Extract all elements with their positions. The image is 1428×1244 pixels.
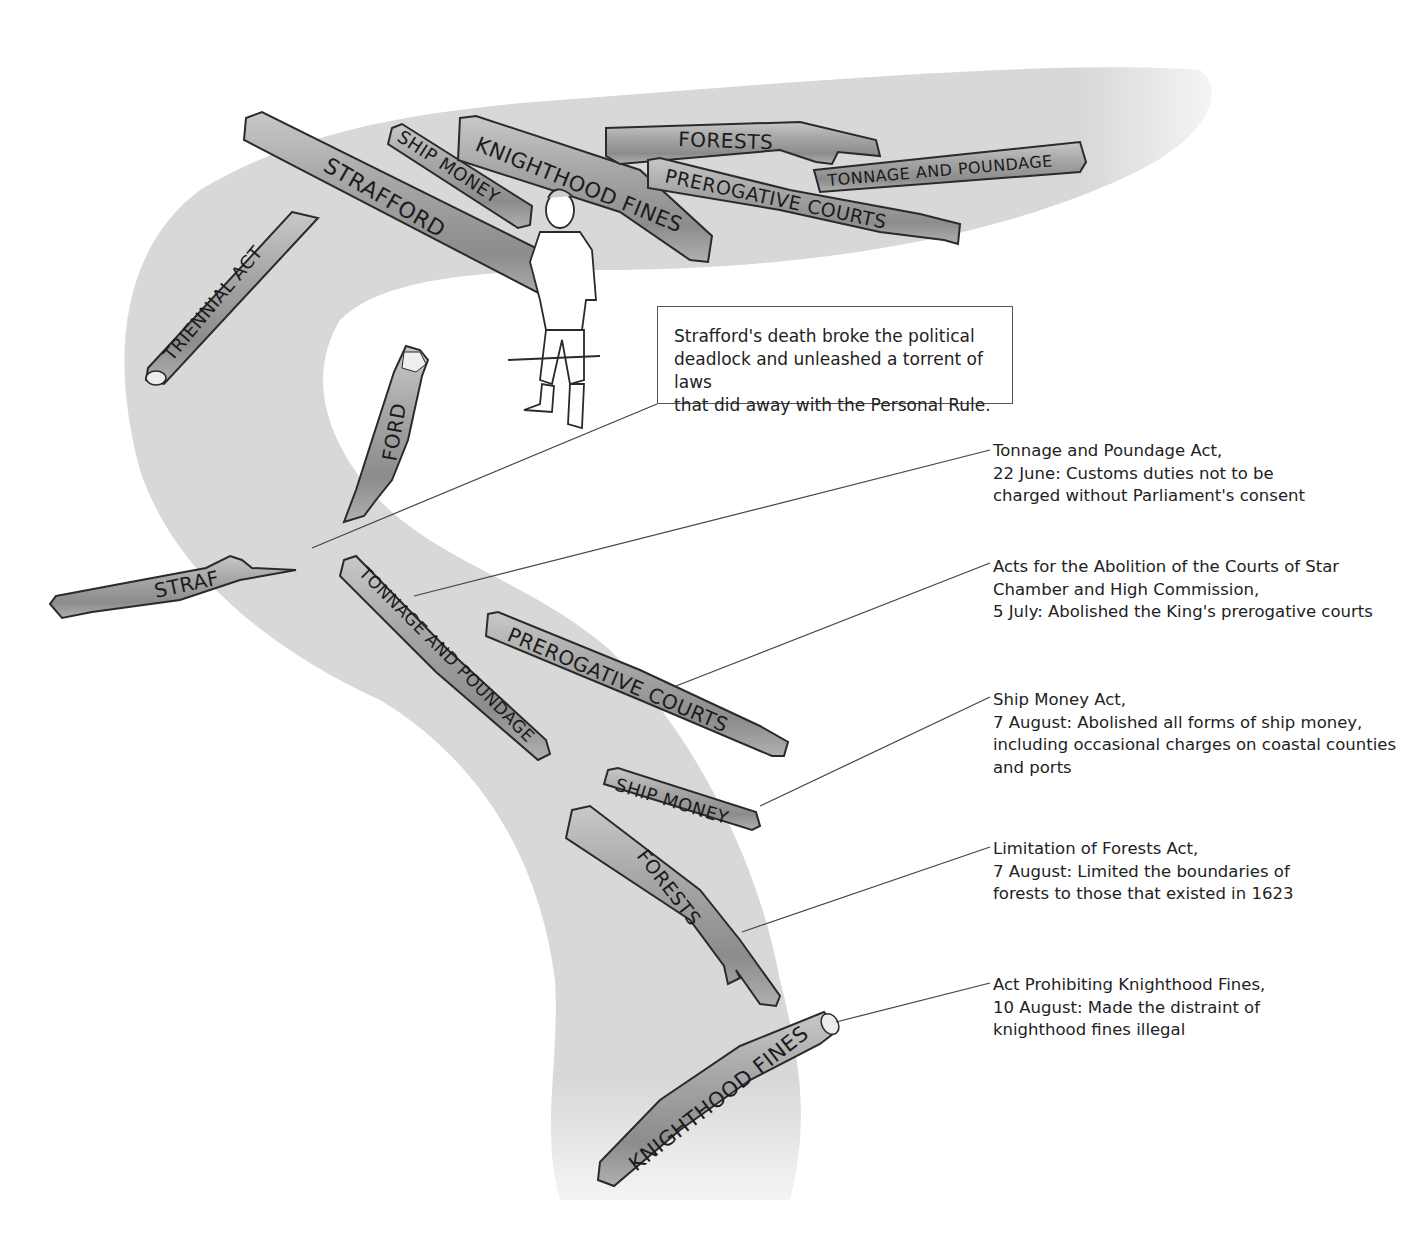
callout-line: deadlock and unleashed a torrent of laws — [674, 348, 998, 394]
annotation-text: 7 August: Abolished all forms of ship mo… — [993, 712, 1396, 735]
annotation-title: Tonnage and Poundage Act, — [993, 440, 1305, 463]
annotation-tonnage-poundage-act: Tonnage and Poundage Act, 22 June: Custo… — [993, 440, 1305, 508]
callout-line: that did away with the Personal Rule. — [674, 394, 998, 417]
svg-text:FORESTS: FORESTS — [678, 127, 774, 154]
leader-knighthood — [836, 983, 990, 1022]
annotation-text: Chamber and High Commission, — [993, 579, 1373, 602]
annotation-star-chamber-acts: Acts for the Abolition of the Courts of … — [993, 556, 1373, 624]
annotation-text: and ports — [993, 757, 1396, 780]
annotation-text: 22 June: Customs duties not to be — [993, 463, 1305, 486]
annotation-text: 7 August: Limited the boundaries of — [993, 861, 1293, 884]
annotation-text: 10 August: Made the distraint of — [993, 997, 1265, 1020]
annotation-title: Ship Money Act, — [993, 689, 1396, 712]
annotation-text: including occasional charges on coastal … — [993, 734, 1396, 757]
annotation-text: charged without Parliament's consent — [993, 485, 1305, 508]
strafford-callout-box: Strafford's death broke the political de… — [657, 306, 1013, 404]
annotation-ship-money-act: Ship Money Act, 7 August: Abolished all … — [993, 689, 1396, 779]
annotation-title: Act Prohibiting Knighthood Fines, — [993, 974, 1265, 997]
leader-prerogative — [676, 563, 990, 686]
annotation-text: forests to those that existed in 1623 — [993, 883, 1293, 906]
annotation-forests-act: Limitation of Forests Act, 7 August: Lim… — [993, 838, 1293, 906]
annotation-text: knighthood fines illegal — [993, 1019, 1265, 1042]
callout-line: Strafford's death broke the political — [674, 325, 998, 348]
leader-tonnage — [414, 450, 990, 596]
annotation-title: Limitation of Forests Act, — [993, 838, 1293, 861]
leader-forests — [742, 847, 990, 932]
log-ford-broken: FORD — [344, 346, 428, 522]
leader-ship-money — [760, 697, 990, 806]
annotation-text: 5 July: Abolished the King's prerogative… — [993, 601, 1373, 624]
annotation-title: Acts for the Abolition of the Courts of … — [993, 556, 1373, 579]
annotation-knighthood-fines-act: Act Prohibiting Knighthood Fines, 10 Aug… — [993, 974, 1265, 1042]
